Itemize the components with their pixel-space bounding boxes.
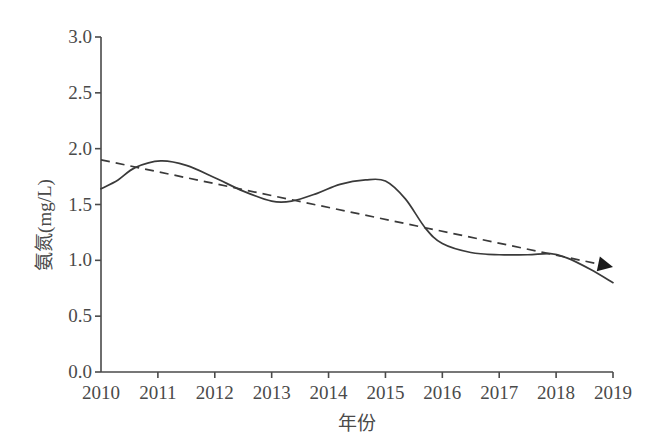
x-axis-tick-label: 2015 (366, 382, 404, 404)
y-axis-tick-label: 0.0 (38, 361, 92, 383)
x-axis-tick-label: 2012 (196, 382, 234, 404)
data-series-observed-line (101, 161, 613, 283)
y-axis-tick-label: 2.5 (38, 82, 92, 104)
x-axis-tick-label: 2011 (139, 382, 176, 404)
x-axis-tick-label: 2013 (253, 382, 291, 404)
y-axis-title: 氨氮(mg/L) (29, 179, 56, 271)
x-axis-tick-label: 2016 (423, 382, 461, 404)
y-axis-tick-label: 3.0 (38, 26, 92, 48)
y-axis-ticks (95, 37, 101, 372)
axis-lines (101, 37, 613, 372)
trend-arrow-icon (597, 257, 613, 272)
y-axis-tick-label: 0.5 (38, 305, 92, 327)
x-axis-title: 年份 (338, 408, 376, 435)
x-axis-ticks (158, 372, 613, 378)
chart-figure: 0.00.51.01.52.02.53.0 201020112012201320… (0, 0, 669, 444)
x-axis-tick-label: 2010 (82, 382, 120, 404)
x-axis-tick-label: 2019 (594, 382, 632, 404)
chart-plot-area (0, 0, 669, 444)
data-series-trend-line (101, 160, 601, 265)
x-axis-tick-label: 2014 (310, 382, 348, 404)
x-axis-tick-label: 2018 (537, 382, 575, 404)
y-axis-tick-label: 2.0 (38, 138, 92, 160)
x-axis-tick-label: 2017 (480, 382, 518, 404)
